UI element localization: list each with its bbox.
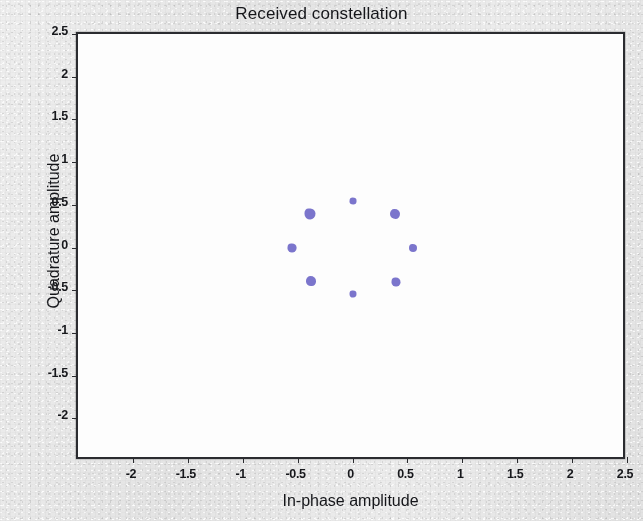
constellation-point: [349, 197, 356, 204]
x-axis-title: In-phase amplitude: [76, 492, 625, 510]
constellation-point: [304, 209, 315, 220]
y-axis-tick-mark: [72, 376, 78, 377]
y-axis-tick-label: 1.5: [30, 109, 68, 123]
y-axis-tick-mark: [72, 34, 78, 35]
x-axis-tick-label: 0.5: [397, 467, 413, 481]
x-axis-tick-label: -1.5: [176, 467, 196, 481]
y-axis-tick-mark: [72, 119, 78, 120]
y-axis-tick-label: -2: [30, 408, 68, 422]
y-axis-tick-label: 0.5: [30, 195, 68, 209]
constellation-point: [409, 244, 417, 252]
x-axis-tick-label: -0.5: [285, 467, 305, 481]
y-axis-tick-label: -1.5: [30, 366, 68, 380]
x-axis-tick-label: 2.5: [617, 467, 633, 481]
x-axis-tick-mark: [353, 457, 354, 463]
x-axis-tick-label: -2: [126, 467, 137, 481]
constellation-point: [349, 291, 356, 298]
x-axis-tick-label: 2: [567, 467, 574, 481]
y-axis-tick-mark: [72, 248, 78, 249]
page-title: Received constellation: [0, 4, 643, 24]
y-axis-tick-label: 2.5: [30, 24, 68, 38]
x-axis-tick-mark: [572, 457, 573, 463]
x-axis-tick-mark: [627, 457, 628, 463]
y-axis-tick-label: -1: [30, 323, 68, 337]
x-axis-tick-mark: [133, 457, 134, 463]
x-axis-tick-mark: [462, 457, 463, 463]
x-axis-tick-mark: [188, 457, 189, 463]
y-axis-tick-label: 0: [30, 238, 68, 252]
y-axis-tick-mark: [72, 77, 78, 78]
constellation-point: [390, 209, 400, 219]
y-axis-tick-label: 1: [30, 152, 68, 166]
y-axis-tick-mark: [72, 162, 78, 163]
y-axis-tick-mark: [72, 290, 78, 291]
y-axis-tick-label: 2: [30, 67, 68, 81]
y-axis-tick-label: -0.5: [30, 280, 68, 294]
x-axis-tick-label: -1: [235, 467, 246, 481]
x-axis-tick-mark: [243, 457, 244, 463]
x-axis-tick-label: 1: [457, 467, 464, 481]
plot-canvas: [78, 34, 623, 457]
x-axis-tick-mark: [298, 457, 299, 463]
constellation-point: [392, 277, 401, 286]
constellation-point: [306, 276, 316, 286]
constellation-figure: Received constellation In-phase amplitud…: [0, 0, 643, 521]
x-axis-tick-label: 0: [347, 467, 354, 481]
y-axis-tick-mark: [72, 205, 78, 206]
x-axis-tick-mark: [407, 457, 408, 463]
y-axis-tick-mark: [72, 418, 78, 419]
x-axis-tick-mark: [517, 457, 518, 463]
plot-axes-box: [76, 32, 625, 459]
y-axis-tick-mark: [72, 333, 78, 334]
constellation-point: [288, 243, 297, 252]
x-axis-tick-label: 1.5: [507, 467, 523, 481]
